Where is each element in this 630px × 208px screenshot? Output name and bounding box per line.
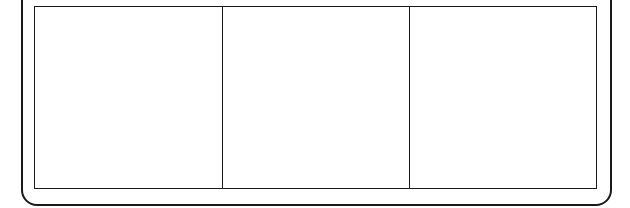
- figure-canvas: [0, 0, 630, 208]
- table-cell-3[interactable]: [410, 7, 596, 188]
- table-cell-1[interactable]: [35, 7, 223, 188]
- table-cell-2[interactable]: [223, 7, 409, 188]
- table-cell-3-text: [410, 7, 596, 188]
- three-column-table: [34, 6, 597, 189]
- table-cell-1-text: [35, 7, 222, 188]
- table-cell-2-text: [223, 7, 408, 188]
